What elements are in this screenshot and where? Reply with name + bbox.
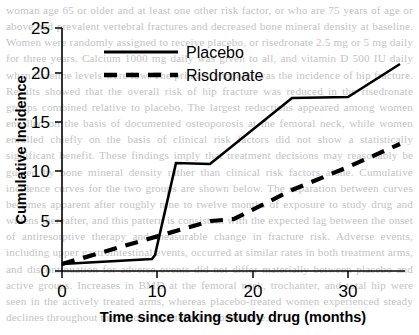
series-line-placebo <box>62 64 400 264</box>
chart-figure: 25 20 15 10 5 0 0 10 20 30 Cumulative In… <box>0 0 419 335</box>
series-line-risdronate <box>62 144 400 264</box>
x-tick-label-10: 10 <box>148 282 167 301</box>
y-tick-label-0: 0 <box>41 262 50 281</box>
legend-label-risdronate: Risdronate <box>186 67 263 84</box>
legend-label-placebo: Placebo <box>186 44 244 61</box>
x-tick-label-30: 30 <box>339 282 358 301</box>
x-axis-title: Time since taking study drug (months) <box>100 309 367 325</box>
y-axis: 25 20 15 10 5 0 <box>31 19 62 281</box>
y-tick-label-15: 15 <box>31 113 50 132</box>
x-tick-label-20: 20 <box>244 282 263 301</box>
y-tick-label-20: 20 <box>31 64 50 83</box>
y-tick-label-5: 5 <box>41 212 50 231</box>
x-tick-label-0: 0 <box>57 282 66 301</box>
x-axis: 0 10 20 30 <box>57 271 405 301</box>
y-tick-label-10: 10 <box>31 162 50 181</box>
chart-svg: 25 20 15 10 5 0 0 10 20 30 Cumulative In… <box>0 0 419 335</box>
chart-legend: Placebo Risdronate <box>104 44 263 84</box>
y-tick-label-25: 25 <box>31 19 50 38</box>
y-axis-title: Cumulative Incidence <box>13 75 29 224</box>
